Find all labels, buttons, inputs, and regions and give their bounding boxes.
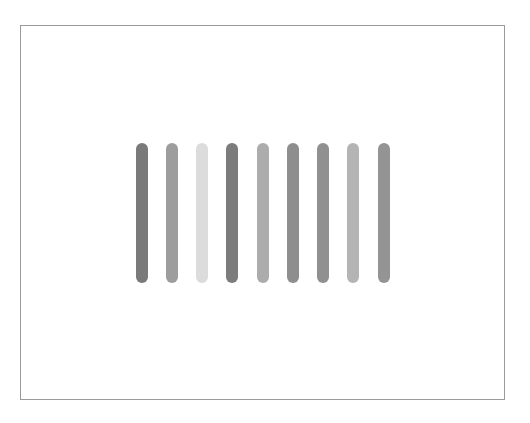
vertical-bar-5 xyxy=(257,143,269,283)
vertical-bar-7 xyxy=(317,143,329,283)
vertical-bar-8 xyxy=(347,143,359,283)
vertical-bar-3 xyxy=(196,143,208,283)
vertical-bar-9 xyxy=(378,143,390,283)
vertical-bar-6 xyxy=(287,143,299,283)
vertical-bar-2 xyxy=(166,143,178,283)
stimulus-canvas xyxy=(0,0,530,423)
vertical-bar-4 xyxy=(226,143,238,283)
vertical-bar-1 xyxy=(136,143,148,283)
